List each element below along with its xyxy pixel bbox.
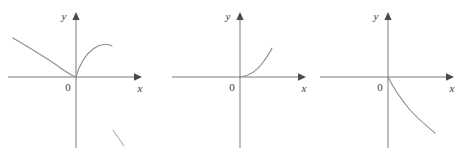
panel-2-x-axis-label: x (301, 82, 307, 94)
coordinate-plane-panel-2: y x 0 (164, 0, 312, 159)
panel-1-x-axis-label: x (137, 82, 143, 94)
panel-2-y-axis-arrowhead (236, 12, 243, 20)
panel-1-stray-mark (113, 130, 124, 146)
panel-1-y-axis-label: y (61, 10, 67, 22)
panel-3-svg: y x 0 (312, 0, 467, 159)
panel-1-x-axis-arrowhead (134, 73, 142, 81)
panel-1-curve-right-branch (76, 44, 112, 77)
panel-3-origin-label: 0 (377, 81, 383, 93)
panel-3-y-axis-label: y (373, 10, 379, 22)
panel-3-x-axis-arrowhead (446, 73, 454, 81)
panel-3-y-axis-arrowhead (384, 12, 391, 20)
three-coordinate-planes-figure: y x 0 y x 0 y x 0 (0, 0, 467, 159)
panel-1-curve-left-branch (13, 38, 76, 77)
panel-1-y-axis-arrowhead (72, 12, 79, 20)
panel-3-curve-right-branch (388, 77, 435, 133)
panel-2-origin-label: 0 (229, 81, 235, 93)
panel-1-origin-label: 0 (65, 81, 71, 93)
coordinate-plane-panel-1: y x 0 (0, 0, 155, 159)
panel-1-svg: y x 0 (0, 0, 155, 159)
panel-2-y-axis-label: y (225, 10, 231, 22)
panel-2-curve-right-branch (240, 48, 272, 77)
coordinate-plane-panel-3: y x 0 (312, 0, 467, 159)
panel-2-x-axis-arrowhead (298, 73, 306, 81)
panel-3-x-axis-label: x (449, 82, 455, 94)
panel-2-svg: y x 0 (164, 0, 312, 159)
